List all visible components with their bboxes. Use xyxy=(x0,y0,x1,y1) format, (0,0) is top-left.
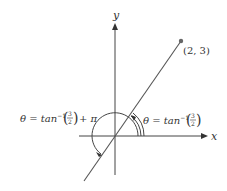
x-axis-label: x xyxy=(211,130,218,143)
y-axis-arrow-icon xyxy=(112,23,118,30)
large-angle-prefix: θ = tan xyxy=(20,113,57,124)
small-angle-rparen: ) xyxy=(196,112,201,128)
x-axis-arrow-icon xyxy=(201,133,208,139)
svg-text:θ = tan−1: θ = tan−1 xyxy=(143,114,189,126)
large-angle-frac-den: 2 xyxy=(68,118,72,125)
polar-angle-diagram: x y (2, 3) θ = tan−1 ( 3 2 ) θ = tan−1 (… xyxy=(0,0,227,191)
large-angle-label: θ = tan−1 ( 3 2 ) + π xyxy=(20,110,98,126)
small-angle-prefix: θ = tan xyxy=(143,115,180,126)
large-angle-suffix: + π xyxy=(79,113,98,124)
ray-line xyxy=(84,41,181,181)
svg-text:θ = tan−1: θ = tan−1 xyxy=(20,112,66,124)
small-angle-frac-den: 2 xyxy=(191,120,195,127)
small-angle-frac-num: 3 xyxy=(191,112,195,119)
large-angle-frac-num: 3 xyxy=(68,110,72,117)
point-label: (2, 3) xyxy=(183,45,210,56)
point-marker xyxy=(179,39,183,43)
small-angle-label: θ = tan−1 ( 3 2 ) xyxy=(143,112,201,128)
y-axis-label: y xyxy=(112,9,120,22)
large-angle-rparen: ) xyxy=(73,110,78,126)
